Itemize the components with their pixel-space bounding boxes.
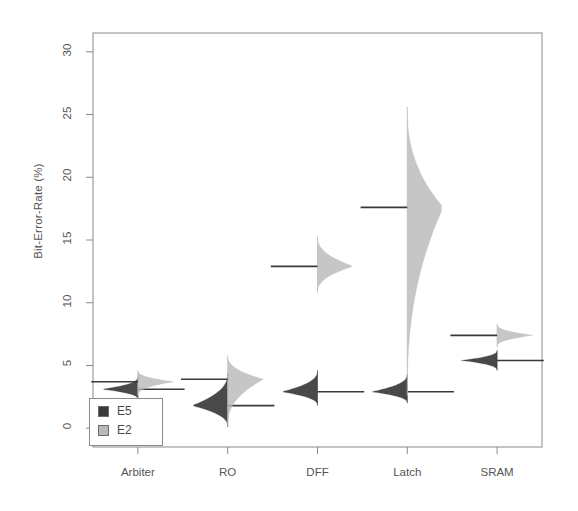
- x-tick-label-dff: DFF: [306, 466, 328, 478]
- bean-e2-latch: [361, 107, 442, 396]
- y-axis-ticks: [86, 52, 93, 428]
- legend-swatch-e5: [98, 406, 109, 417]
- y-tick-label: 5: [61, 351, 73, 375]
- bean-series-group: [91, 107, 544, 427]
- plot-canvas: [0, 0, 578, 511]
- legend-item-e2: E2: [98, 424, 132, 436]
- bean-e5-dff: [283, 370, 364, 405]
- bean-e2-sram: [450, 324, 533, 347]
- x-tick-label-sram: SRAM: [480, 466, 513, 478]
- y-tick-label: 25: [61, 101, 73, 125]
- y-axis-title: Bit-Error-Rate (%): [32, 111, 44, 311]
- y-tick-label: 15: [61, 226, 73, 250]
- bean-e2-dff: [271, 236, 352, 292]
- legend-item-e5: E5: [98, 405, 132, 417]
- x-tick-label-latch: Latch: [393, 466, 421, 478]
- x-tick-label-ro: RO: [219, 466, 236, 478]
- x-tick-label-arbiter: Arbiter: [121, 466, 155, 478]
- legend-label-e2: E2: [117, 424, 132, 436]
- legend-swatch-e2: [98, 425, 109, 436]
- x-axis-ticks: [138, 447, 497, 454]
- y-tick-label: 10: [61, 289, 73, 313]
- bean-e5-sram: [461, 350, 544, 370]
- beanplot-figure: Bit-Error-Rate (%) 051015202530 ArbiterR…: [0, 0, 578, 511]
- y-tick-label: 20: [61, 163, 73, 187]
- legend: E5 E2: [89, 398, 163, 446]
- y-tick-label: 30: [61, 38, 73, 62]
- legend-label-e5: E5: [117, 405, 132, 417]
- bean-e5-latch: [372, 374, 454, 403]
- y-tick-label: 0: [61, 414, 73, 438]
